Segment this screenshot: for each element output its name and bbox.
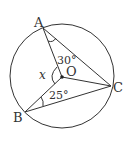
segment-OA (43, 28, 62, 77)
angle-arc-OBC (41, 97, 43, 106)
segment-AC (43, 28, 111, 86)
label-B: B (13, 110, 23, 125)
geometry-figure: A B C O 30° 25° x (0, 0, 134, 141)
angle-label-AOB: x (39, 68, 46, 82)
center-point-O (60, 75, 64, 79)
angle-label-OBC: 25° (49, 89, 69, 102)
diagram-canvas: A B C O 30° 25° x (0, 0, 134, 141)
angle-arc-AOB (52, 67, 57, 84)
label-A: A (33, 15, 44, 30)
angle-label-OAC: 30° (57, 54, 77, 67)
label-C: C (113, 80, 123, 95)
